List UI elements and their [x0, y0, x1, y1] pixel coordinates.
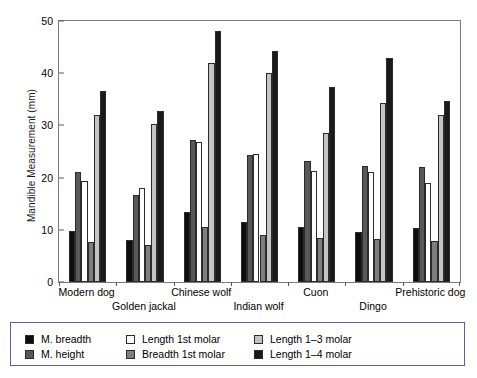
bar [272, 51, 278, 282]
legend-item: Breadth 1st molar [126, 349, 225, 360]
y-axis-tick-mark [59, 125, 64, 126]
y-axis-tick-label: 30 [41, 119, 53, 131]
x-axis-group-label: Modern dog [59, 286, 115, 298]
x-axis-group-label: Prehistoric dog [395, 286, 465, 298]
y-axis-tick-mark [59, 21, 64, 22]
legend-swatch-icon [25, 350, 34, 359]
y-axis-tick-label: 20 [41, 172, 53, 184]
plot-area: 01020304050 [58, 20, 461, 283]
y-axis-tick-label: 10 [41, 224, 53, 236]
legend-item: M. height [25, 349, 84, 360]
legend-swatch-icon [126, 350, 135, 359]
legend-swatch-icon [254, 335, 263, 344]
legend-label: M. height [41, 349, 84, 360]
bar [157, 111, 163, 282]
x-axis-group-label: Cuon [303, 286, 328, 298]
x-axis-group-label: Dingo [359, 300, 386, 312]
bar [329, 87, 335, 282]
y-axis-title: Mandible Measurement (mm) [26, 46, 37, 266]
y-axis-tick-label: 50 [41, 15, 53, 27]
legend-swatch-icon [254, 350, 263, 359]
legend-item: Length 1–3 molar [254, 334, 352, 345]
y-axis-tick-label: 0 [47, 276, 53, 288]
x-axis-tick-mark [116, 282, 117, 286]
legend-label: Length 1st molar [142, 334, 220, 345]
bar [386, 58, 392, 282]
y-axis-tick-mark [59, 73, 64, 74]
x-axis-group-label: Indian wolf [233, 300, 283, 312]
x-axis-tick-mark [288, 282, 289, 286]
legend-label: M. breadth [41, 334, 91, 345]
legend-label: Length 1–4 molar [270, 349, 352, 360]
bar [444, 101, 450, 282]
legend-swatch-icon [25, 335, 34, 344]
x-axis-tick-mark [345, 282, 346, 286]
y-axis-tick-label: 40 [41, 67, 53, 79]
y-axis-tick-mark [59, 177, 64, 178]
plot-inner: 01020304050 [59, 21, 460, 282]
legend-item: Length 1st molar [126, 334, 220, 345]
x-axis-group-label: Golden jackal [112, 300, 176, 312]
legend-swatch-icon [126, 335, 135, 344]
x-axis-group-label: Chinese wolf [171, 286, 231, 298]
bar [100, 91, 106, 282]
chart-figure: Mandible Measurement (mm) 01020304050 M.… [0, 0, 477, 378]
legend-item: Length 1–4 molar [254, 349, 352, 360]
chart-legend: M. breadthM. heightLength 1st molarBread… [10, 322, 465, 366]
bar [215, 31, 221, 282]
legend-item: M. breadth [25, 334, 91, 345]
y-axis-tick-mark [59, 229, 64, 230]
legend-label: Breadth 1st molar [142, 349, 225, 360]
legend-label: Length 1–3 molar [270, 334, 352, 345]
